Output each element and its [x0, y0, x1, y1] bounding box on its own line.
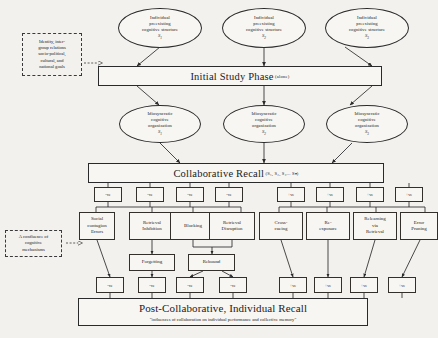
valence-top-negative-1[interactable]: -ve [94, 187, 122, 202]
idiosyncratic-s3-line1: Idiosyncratic [354, 111, 379, 116]
valence-bottom-positive-4[interactable]: +ve [388, 277, 416, 293]
valence-bottom-positive-2[interactable]: +ve [314, 277, 342, 293]
valence-bottom-positive-3-label: +ve [361, 283, 367, 288]
valence-top-positive-3[interactable]: +ve [356, 187, 384, 202]
valence-top-positive-4-label: +ve [406, 192, 412, 197]
annotation-identity-line1: Identity, inter- [39, 39, 65, 44]
node-preexisting-s1[interactable]: Individual preexisting cognitive structu… [118, 8, 202, 48]
valence-top-positive-1[interactable]: +ve [277, 187, 305, 202]
annotation-confluence: A confluence of cognitive mechanisms [5, 230, 62, 257]
preexisting-s3-line1: Individual [357, 15, 377, 20]
collaborative-recall-title: Collaborative Recall [173, 168, 264, 179]
valence-bottom-negative-2-label: -ve [149, 283, 155, 288]
valence-top-positive-2-label: +ve [327, 192, 333, 197]
valence-top-negative-1-label: -ve [105, 192, 111, 197]
node-initial-study-phase[interactable]: Initial Study Phase (alone) [98, 66, 382, 86]
retrieval-inhibition-line2: Inhibition [142, 226, 161, 231]
forgetting-label: Forgetting [142, 259, 162, 264]
valence-bottom-negative-4[interactable]: -ve [219, 277, 247, 293]
annotation-confluence-line2: cognitive [25, 240, 42, 245]
initial-study-title: Initial Study Phase [190, 71, 273, 82]
valence-bottom-positive-3[interactable]: +ve [350, 277, 378, 293]
node-rebound[interactable]: Rebound [188, 254, 235, 271]
idiosyncratic-s1-line3: organization [148, 123, 172, 128]
node-re-exposure[interactable]: Re- exposure [306, 212, 350, 240]
valence-top-positive-2[interactable]: +ve [316, 187, 344, 202]
annotation-identity-line3: socio-political, [38, 51, 65, 56]
social-contagion-errors-line3: Errors [91, 229, 103, 234]
node-cross-cueing[interactable]: Cross- cueing [259, 212, 303, 240]
node-idiosyncratic-s1[interactable]: Idiosyncratic cognitive organization S1 [119, 105, 201, 143]
post-collaborative-title: Post-Collaborative, Individual Recall [139, 302, 307, 314]
cross-cueing-line2: cueing [274, 226, 287, 231]
valence-bottom-positive-4-label: +ve [399, 283, 405, 288]
valence-top-negative-4[interactable]: -ve [215, 187, 243, 202]
rebound-label: Rebound [203, 259, 221, 264]
node-preexisting-s3[interactable]: Individual preexisting cognitive structu… [325, 8, 409, 48]
preexisting-s3-line3: cognitive structure [349, 27, 385, 32]
annotation-confluence-line1: A confluence of [19, 234, 48, 239]
idiosyncratic-s2-line1: Idiosyncratic [251, 111, 276, 116]
valence-top-positive-4[interactable]: +ve [395, 187, 423, 202]
collaborative-recall-qualifier: (S₁, S₂, S₃... Sₙ) [266, 171, 299, 176]
idiosyncratic-s3-index: 3 [367, 132, 369, 136]
valence-top-negative-2[interactable]: -ve [136, 187, 164, 202]
valence-top-positive-1-label: +ve [288, 192, 294, 197]
annotation-identity: Identity, inter- group relations socio-p… [22, 33, 82, 76]
valence-bottom-positive-1[interactable]: +ve [279, 277, 307, 293]
node-post-collaborative-individual-recall[interactable]: Post-Collaborative, Individual Recall "i… [78, 298, 368, 326]
valence-top-negative-4-label: -ve [226, 192, 232, 197]
valence-bottom-positive-1-label: +ve [290, 283, 296, 288]
preexisting-s2-line3: cognitive structure [246, 27, 282, 32]
idiosyncratic-s3-line3: organization [355, 123, 379, 128]
node-collaborative-recall[interactable]: Collaborative Recall (S₁, S₂, S₃... Sₙ) [88, 163, 384, 183]
valence-bottom-negative-4-label: -ve [230, 283, 236, 288]
initial-study-qualifier: (alone) [275, 74, 289, 79]
valence-bottom-positive-2-label: +ve [325, 283, 331, 288]
node-retrieval-inhibition[interactable]: Retrieval Inhibition [129, 212, 175, 240]
preexisting-s1-line1: Individual [150, 15, 170, 20]
valence-bottom-negative-3[interactable]: -ve [176, 277, 204, 293]
preexisting-s1-line3: cognitive structure [142, 27, 178, 32]
valence-top-negative-3-label: -ve [187, 192, 193, 197]
preexisting-s3-index: 3 [367, 36, 369, 40]
preexisting-s2-line2: preexisting [253, 21, 274, 26]
idiosyncratic-s1-line1: Idiosyncratic [147, 111, 172, 116]
valence-top-negative-3[interactable]: -ve [176, 187, 204, 202]
idiosyncratic-s2-line2: cognitive [255, 117, 273, 122]
node-forgetting[interactable]: Forgetting [129, 254, 175, 271]
error-pruning-line1: Error [414, 220, 424, 225]
annotation-identity-line5: national goals [39, 64, 65, 69]
node-idiosyncratic-s3[interactable]: Idiosyncratic cognitive organization S3 [326, 105, 408, 143]
cross-cueing-line1: Cross- [275, 220, 288, 225]
valence-bottom-negative-1-label: -ve [107, 283, 113, 288]
retrieval-disruption-line1: Retrieval [223, 220, 241, 225]
diagram-canvas: Identity, inter- group relations socio-p… [0, 0, 438, 338]
idiosyncratic-s1-line2: cognitive [151, 117, 169, 122]
relearning-line2: via [372, 223, 378, 228]
annotation-identity-line4: cultural, and [41, 58, 64, 63]
re-exposure-line1: Re- [324, 220, 331, 225]
preexisting-s1-index: 1 [160, 36, 162, 40]
re-exposure-line2: exposure [319, 226, 337, 231]
retrieval-disruption-line2: Disruption [222, 226, 243, 231]
node-preexisting-s2[interactable]: Individual preexisting cognitive structu… [222, 8, 306, 48]
retrieval-inhibition-line1: Retrieval [143, 220, 161, 225]
idiosyncratic-s3-line2: cognitive [358, 117, 376, 122]
node-social-contagion-errors[interactable]: Social contagion Errors [79, 212, 115, 240]
error-pruning-line2: Pruning [411, 226, 427, 231]
blocking-label: Blocking [184, 223, 202, 228]
valence-bottom-negative-1[interactable]: -ve [96, 277, 124, 293]
valence-bottom-negative-2[interactable]: -ve [138, 277, 166, 293]
idiosyncratic-s1-index: 1 [160, 132, 162, 136]
preexisting-s1-line2: preexisting [149, 21, 170, 26]
valence-bottom-negative-3-label: -ve [187, 283, 193, 288]
node-retrieval-disruption[interactable]: Retrieval Disruption [209, 212, 255, 240]
node-error-pruning[interactable]: Error Pruning [400, 212, 438, 240]
valence-top-negative-2-label: -ve [147, 192, 153, 197]
post-collaborative-subtitle: "influences of collaboration on individu… [150, 317, 297, 322]
valence-top-positive-3-label: +ve [367, 192, 373, 197]
social-contagion-errors-line1: Social [91, 216, 103, 221]
node-idiosyncratic-s2[interactable]: Idiosyncratic cognitive organization S2 [223, 105, 305, 143]
node-relearning-via-retrieval[interactable]: Relearning via Retrieval [353, 212, 397, 240]
